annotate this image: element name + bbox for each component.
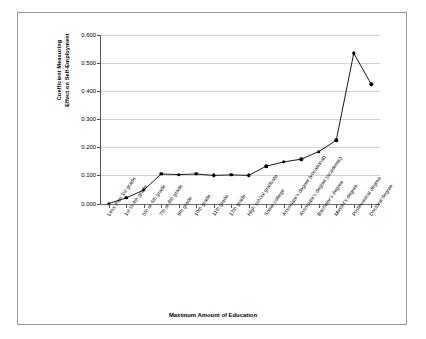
y-axis-tick-label: 0.400 [62,88,96,94]
y-axis-tick-label: 0.500 [62,60,96,66]
gridline [100,147,380,148]
gridline [100,63,380,64]
gridline [100,119,380,120]
y-axis-tick-label: 0.100 [62,172,96,178]
gridline [100,35,380,36]
chart-plot-area: Coefficient Measuring Effect on Self-Emp… [0,0,426,339]
x-axis-title: Maximum Amount of Education [0,312,426,318]
gridline [100,91,380,92]
y-axis-tick-label: 0.000 [62,201,96,207]
y-axis-tick-label: 0.300 [62,116,96,122]
gridline [100,175,380,176]
y-axis-tick-label: 0.200 [62,144,96,150]
gridlines [100,0,380,339]
y-axis-line [100,35,101,204]
y-axis-tick-label: 0.600 [62,32,96,38]
y-axis-tick-labels: 0.0000.1000.2000.3000.4000.5000.600 [62,0,96,339]
